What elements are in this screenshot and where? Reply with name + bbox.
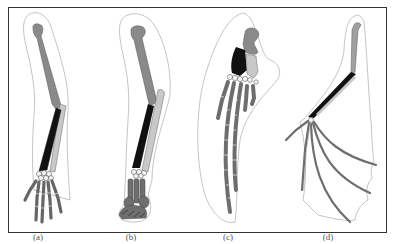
panel-a-carpals	[36, 170, 53, 180]
panel-d-humerus	[351, 23, 361, 74]
panel-c-digits	[218, 82, 254, 212]
panel-d-digits	[286, 121, 376, 222]
panel-b-humerus	[131, 26, 156, 105]
panel-b-carpals	[131, 169, 146, 178]
panel-c-label: (c)	[223, 232, 233, 242]
forelimb-homology-figure: (a) (b)	[0, 0, 395, 244]
panel-c-radius	[231, 47, 247, 76]
panel-a-human-arm: (a)	[24, 13, 70, 242]
panel-a-label: (a)	[33, 232, 43, 242]
panel-c-ulna	[246, 54, 258, 78]
panel-c-humerus	[243, 28, 259, 54]
panel-d-ulna	[316, 76, 356, 116]
panel-d-radius	[308, 72, 356, 118]
panel-c-whale-flipper: (c)	[198, 13, 280, 242]
panel-d-bat-wing: (d)	[286, 15, 376, 242]
panel-a-digits	[25, 181, 61, 222]
panel-d-label: (d)	[323, 232, 334, 242]
panel-c-body-outline	[198, 13, 280, 222]
panel-a-humerus	[33, 24, 61, 109]
panel-b-quadruped-leg: (b)	[119, 14, 170, 242]
panel-d-carpals	[309, 118, 314, 123]
panel-b-label: (b)	[126, 232, 137, 242]
